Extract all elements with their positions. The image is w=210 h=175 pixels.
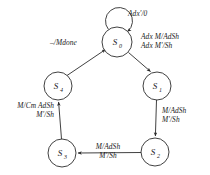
- state-subscript-s2: 2: [157, 153, 160, 159]
- transition-s3-s4: [59, 102, 62, 139]
- edge-s1-s2: [155, 100, 156, 136]
- transition-label-s1-s2: M/AdShM'/Sh: [162, 106, 186, 124]
- transition-label-s0-s1: Adx M/AdShAdx M'/Sh: [141, 32, 179, 50]
- state-label-s1: S: [153, 81, 158, 91]
- state-node-s2[interactable]: S 2: [141, 138, 169, 166]
- transition-s1-s2: [155, 100, 156, 136]
- edge-s0-s1: [129, 53, 151, 72]
- state-label-s4: S: [54, 81, 59, 91]
- state-subscript-s1: 1: [159, 87, 162, 93]
- state-node-s0[interactable]: S 0: [102, 27, 132, 57]
- transition-label-s4-s0: –/Mdone: [50, 38, 77, 47]
- transition-label-s3-s4: M/Cm AdShM'/Sh: [17, 101, 54, 119]
- transition-label-s2-s3: M/AdShM'/Sh: [96, 142, 120, 160]
- state-subscript-s3: 3: [63, 154, 67, 160]
- state-node-s1[interactable]: S 1: [143, 72, 171, 100]
- transition-s4-s0: [67, 50, 106, 76]
- state-label-s2: S: [151, 147, 156, 157]
- transition-s0-s1: [129, 53, 151, 72]
- state-node-s3[interactable]: S 3: [48, 139, 76, 167]
- state-label-s3: S: [58, 148, 63, 158]
- edge-s4-s0: [67, 50, 106, 76]
- state-subscript-s4: 4: [60, 87, 63, 93]
- fsm-diagram: S 0 S 1 S 2 S 3 S 4 Adx'/0 Adx M/AdShAdx…: [0, 0, 210, 175]
- edge-s3-s4: [59, 102, 62, 139]
- state-subscript-s0: 0: [119, 43, 122, 49]
- state-label-s0: S: [113, 37, 118, 47]
- state-node-s4[interactable]: S 4: [44, 72, 72, 100]
- transition-label-self-s0: Adx'/0: [128, 9, 147, 18]
